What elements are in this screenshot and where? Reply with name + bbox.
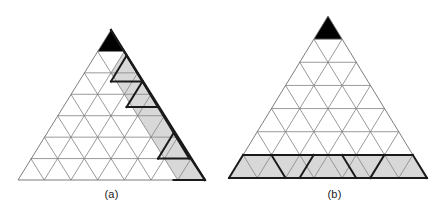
black-cell [314,16,342,39]
triangle-grid-a [0,0,223,213]
figure-container: (a) (b) [0,0,446,213]
cell-fills [229,16,427,178]
caption-b: (b) [223,188,446,200]
triangle-grid-b [223,0,446,213]
grid-line-diagonal-right [31,159,44,180]
thick-path-edges [111,30,205,180]
triangle-border [229,16,427,178]
panel-a [0,0,223,213]
caption-a: (a) [0,188,223,200]
grid-line-diagonal-left [71,73,138,180]
grid-line-diagonal-right [58,116,98,180]
black-cell [98,30,125,51]
shaded-cell [111,51,138,72]
panel-b [223,0,446,213]
triangle-outline [229,16,427,178]
